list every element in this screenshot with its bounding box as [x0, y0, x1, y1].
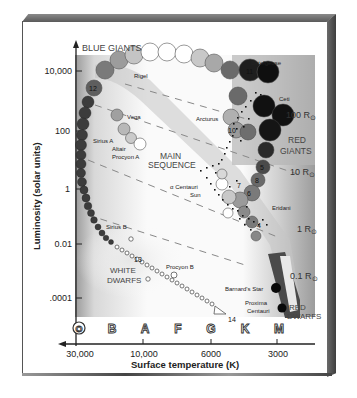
svg-text:A: A: [141, 322, 150, 336]
svg-text:6: 6: [247, 190, 251, 197]
svg-text:10,000: 10,000: [44, 66, 72, 76]
label-sirius-a: Sirius A: [93, 138, 113, 144]
label-altair: Altair: [112, 146, 126, 152]
y-axis-arrow-icon: [73, 40, 79, 48]
label-procyon-a: Procyon A: [112, 154, 139, 160]
svg-text:0.01: 0.01: [54, 239, 72, 249]
label-alpha-centauri: α Centauri: [170, 184, 198, 190]
spectral-classes: O B A F G K M: [73, 322, 284, 336]
label-centauri: Centauri: [247, 308, 270, 314]
svg-text:8: 8: [255, 177, 259, 184]
white-dwarf-region: [75, 222, 185, 298]
svg-text:5: 5: [260, 164, 264, 171]
x-axis-arrow-icon: [58, 341, 66, 347]
label-ceti: Ceti: [279, 96, 290, 102]
svg-text:3000: 3000: [268, 349, 288, 359]
svg-text:4: 4: [257, 222, 261, 229]
red-dwarfs-label-1: RED: [289, 303, 306, 312]
label-sirius-b: Sirius B: [106, 224, 127, 230]
x-ticks: [143, 339, 277, 344]
y-tick-labels: 10,000 100 1 0.01 .0001: [44, 66, 72, 303]
svg-text:F: F: [174, 322, 181, 336]
red-giants-label-1: RED: [288, 135, 306, 145]
hr-diagram: 12 11 10 5 8 7 6 4 13 14 BLUE GIANTS MAI…: [0, 0, 357, 398]
blue-giants-label: BLUE GIANTS: [82, 43, 142, 53]
proxima-centauri-dot: [278, 304, 287, 313]
label-barnards-star: Barnard's Star: [225, 286, 263, 292]
main-sequence-label-2: SEQUENCE: [148, 160, 196, 170]
label-proxima: Proxima: [245, 300, 268, 306]
svg-text:.0001: .0001: [49, 293, 72, 303]
label-sun: Sun: [190, 192, 201, 198]
svg-text:1: 1: [65, 184, 70, 194]
svg-text:14: 14: [228, 316, 236, 323]
svg-text:O: O: [75, 324, 82, 334]
x-tick-labels: 30,000 10,000 6000 3000: [66, 349, 288, 359]
barnards-star-dot: [271, 283, 281, 293]
svg-text:10,000: 10,000: [130, 349, 158, 359]
svg-text:30,000: 30,000: [66, 349, 94, 359]
label-eridani: Eridani: [272, 205, 291, 211]
svg-text:6000: 6000: [201, 349, 221, 359]
label-rigel: Rigel: [134, 73, 148, 79]
white-dwarfs-label-2: DWARFS: [107, 276, 141, 285]
y-axis-title: Luminosity (solar units): [31, 142, 42, 250]
label-procyon-b: Procyon B: [166, 264, 194, 270]
label-betelgeuse: Betelgeuse: [251, 60, 282, 66]
svg-text:G: G: [206, 322, 215, 336]
x-axis-title: Surface temperature (K): [131, 359, 239, 370]
svg-text:M: M: [274, 322, 284, 336]
svg-text:100: 100: [55, 126, 70, 136]
svg-text:B: B: [108, 322, 117, 336]
svg-text:10: 10: [228, 127, 236, 134]
white-dwarfs-label-1: WHITE: [110, 266, 136, 275]
svg-text:12: 12: [89, 85, 97, 92]
svg-text:K: K: [241, 322, 250, 336]
red-giants-label-2: GIANTS: [280, 146, 312, 156]
label-vega: Vega: [127, 114, 141, 120]
svg-text:11: 11: [246, 68, 253, 75]
svg-text:13: 13: [134, 256, 142, 263]
label-arcturus: Arcturus: [196, 116, 218, 122]
red-dwarfs-label-2: DWARFS: [287, 312, 321, 321]
svg-text:7: 7: [237, 182, 241, 189]
